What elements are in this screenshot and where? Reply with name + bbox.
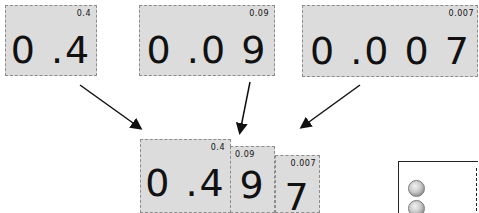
dime-coin-icon: [408, 200, 425, 213]
combined-card-thousandths: 0.007 7: [275, 155, 320, 213]
combined-card-tenths: 0.4 0 .4: [140, 139, 231, 213]
dashed-border: [476, 168, 477, 213]
card-number: 9: [231, 166, 274, 204]
card-number: 7: [276, 178, 319, 213]
arrow-tenths: [80, 85, 140, 128]
arrow-hundredths: [240, 82, 250, 132]
combined-card-hundredths: 0.09 9: [230, 146, 275, 213]
card-label: 0.09: [235, 150, 255, 159]
card-number: 0 .4: [141, 164, 230, 202]
card-label: 0.007: [291, 159, 316, 168]
arrow-thousandths: [302, 85, 360, 127]
card-label: 0.4: [211, 143, 225, 152]
dime-coin-icon: [408, 180, 425, 197]
coin-box: [398, 161, 478, 213]
